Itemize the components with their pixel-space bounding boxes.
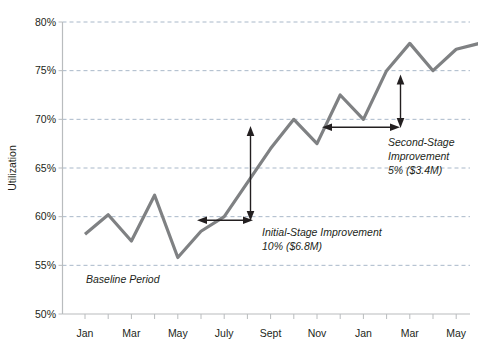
y-tick-label-55: 55% — [35, 259, 56, 271]
x-tick-label-mar: Mar — [122, 327, 141, 339]
y-axis-title: Utilization — [6, 145, 18, 191]
x-tick-label-may: May — [168, 327, 189, 339]
y-tick-label-60: 60% — [35, 210, 56, 222]
baseline-period-annotation: Baseline Period — [86, 273, 161, 285]
y-tick-label-65: 65% — [35, 162, 56, 174]
baseline-period-label: Baseline Period — [86, 273, 161, 285]
x-tick-label-jan: Jan — [77, 327, 94, 339]
y-tick-label-75: 75% — [35, 64, 56, 76]
x-tick-label-nov: Nov — [308, 327, 327, 339]
x-axis-tick-labels-group: JanMarMayJulySeptNovJanMarMay — [77, 327, 467, 339]
x-tick-label-jan: Jan — [355, 327, 372, 339]
second-stage-label-line-2: Improvement — [388, 150, 450, 162]
x-tick-label-july: July — [215, 327, 234, 339]
x-tick-label-mar: Mar — [401, 327, 420, 339]
second-stage-label-line-1: Second-Stage — [388, 136, 455, 148]
chart-background — [0, 0, 478, 362]
second-stage-label-line-3: 5% ($3.4M) — [388, 164, 442, 176]
x-tick-label-sept: Sept — [260, 327, 282, 339]
y-tick-label-50: 50% — [35, 308, 56, 320]
utilization-line-chart: 80%75%70%65%60%55%50% JanMarMayJulySeptN… — [0, 0, 478, 362]
chart-canvas: 80%75%70%65%60%55%50% JanMarMayJulySeptN… — [0, 0, 478, 362]
y-tick-label-70: 70% — [35, 113, 56, 125]
y-tick-label-80: 80% — [35, 16, 56, 28]
x-tick-label-may: May — [446, 327, 467, 339]
initial-stage-label-line-2: 10% ($6.8M) — [262, 240, 322, 252]
initial-stage-label-line-1: Initial-Stage Improvement — [262, 226, 383, 238]
